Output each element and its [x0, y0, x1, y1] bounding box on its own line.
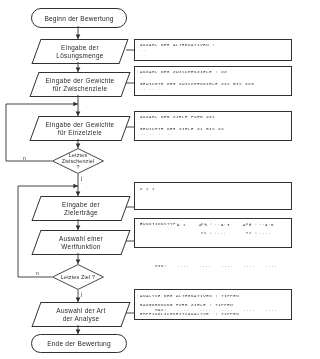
matrix-cell: .... [199, 264, 221, 269]
matrix-row-label: Z 1 1 [140, 187, 155, 192]
node-select-value-function-line1: Auswahl einer [59, 235, 103, 243]
output-box-analysis-menu: ANALYSE DER ALTERNATIVEN : TIPPEN RANGOR… [134, 289, 292, 320]
pair-left-label: X1 : [201, 222, 215, 227]
node-decision-last-goal-line1: Letztes Ziel ? [52, 274, 104, 280]
output-line: EMPFINDLICHKEITSANALYSE : TIPPEN [140, 312, 287, 317]
node-input-weights-single: Eingabe der Gewichte für Einzelziele [29, 116, 130, 141]
matrix-cell: .... [243, 264, 265, 269]
node-input-weights-sub: Eingabe der Gewichte für Zwischenziele [29, 72, 130, 97]
pair-right-value: .... [260, 222, 287, 227]
output-box-alternatives: ANZAHL DER ALTERNATIVEN : .. [134, 39, 292, 61]
node-input-solution-set: Eingabe der Lösungsmenge [31, 39, 128, 64]
pair-spacer [140, 231, 201, 236]
branch-label-last-goal-no: n [36, 270, 39, 276]
node-start-label: Beginn der Bewertung [44, 15, 113, 22]
node-input-weights-sub-line1: Eingabe der Gewichte [46, 77, 115, 85]
node-start: Beginn der Bewertung [31, 8, 127, 28]
matrix-row-name: MIN: [155, 264, 177, 269]
output-line: RANGORDNUNG FUER ZIELE : TIPPEN [140, 303, 287, 308]
node-decision-last-sub-line3: ? [52, 164, 104, 170]
output-box-subgoals: ANZAHL DER ZWISCHENZIELE : ZZ . GEWICHTE… [134, 66, 292, 96]
node-decision-last-goal: Letztes Ziel ? [52, 264, 104, 290]
node-select-analysis-type-line1: Auswahl der Art [56, 307, 105, 315]
output-box-function-type: FUNKTIONSTYP: 3 X1 : .... X2 : .... Y1 :… [134, 218, 292, 248]
node-decision-last-sub: Letztes Zwischenziel ? [52, 148, 104, 174]
pair-left-label: Y1 : [201, 231, 215, 236]
matrix-cell: .... [177, 264, 199, 269]
output-box-goals: ANZAHL DER ZIELE FUER ZZ1 . GEWICHTE DER… [134, 111, 292, 141]
pair-left-value: .... [214, 222, 245, 227]
node-select-analysis-type-line2: der Analyse [63, 315, 100, 323]
node-input-solution-set-line1: Eingabe der [61, 44, 99, 52]
output-dots: .. [140, 48, 287, 52]
pair-left-value: .... [214, 231, 245, 236]
output-dots: .. .. .. [140, 87, 287, 91]
pair-right-value: .... [260, 231, 287, 236]
matrix-cell: .... [265, 264, 287, 269]
node-select-analysis-type: Auswahl der Art der Analyse [31, 302, 130, 327]
node-input-solution-set-line2: Lösungsmenge [56, 52, 103, 60]
node-input-weights-single-line1: Eingabe der Gewichte [46, 121, 115, 129]
pair-right-label: Y2 : [246, 231, 260, 236]
branch-label-last-goal-yes: j [81, 291, 82, 297]
node-end: Ende der Bewertung [31, 334, 127, 353]
node-input-target-yields-line1: Eingabe der [62, 201, 100, 209]
node-input-weights-single-line2: für Einzelziele [58, 129, 102, 137]
output-line: ANALYSE DER ALTERNATIVEN : TIPPEN [140, 294, 287, 299]
node-select-value-function: Auswahl einer Wertfunktion [31, 230, 130, 255]
output-dots: 3 [140, 222, 201, 227]
node-end-label: Ende der Bewertung [47, 340, 111, 347]
node-input-weights-sub-line2: für Zwischenziele [53, 85, 107, 93]
matrix-cell: .... [221, 264, 243, 269]
node-select-value-function-line2: Wertfunktion [61, 243, 100, 251]
branch-label-last-sub-no: n [23, 155, 26, 161]
output-dots: .. .. .. .. [140, 132, 287, 136]
node-input-target-yields-line2: Zielerträge [64, 209, 98, 217]
branch-label-last-sub-yes: j [81, 175, 82, 181]
pair-right-label: X2 : [246, 222, 260, 227]
output-box-yield-matrix: Z 1 1 A 1 A 2 A 3 A 4 A 5 MIN: .... ....… [134, 182, 292, 210]
node-input-target-yields: Eingabe der Zielerträge [31, 196, 130, 221]
